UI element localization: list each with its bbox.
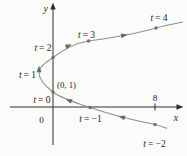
label-t0-var: t (33, 95, 36, 105)
parametric-curve-figure: y x 8 0 (0, 1) t= 4 t= 3 t= 2 t= 1 t= 0 … (0, 0, 187, 156)
point-t-1 (88, 106, 91, 109)
label-t3: t= 3 (78, 30, 95, 40)
label-t3-var: t (78, 30, 81, 40)
label-t0: t= 0 (33, 95, 50, 105)
parametric-curve (39, 22, 183, 129)
label-t3-eq: = 3 (83, 30, 96, 40)
label-t2: t= 2 (34, 43, 51, 53)
direction-arrow-icon (37, 66, 42, 73)
label-t-2-var: t (143, 139, 146, 149)
label-t-1-var: t (79, 114, 82, 124)
label-t-1: t= −1 (79, 114, 102, 124)
y-axis-label: y (43, 3, 49, 14)
axes (10, 3, 184, 146)
point-t-2 (153, 123, 156, 126)
y-axis-arrow-icon (50, 3, 55, 10)
label-t1-eq: = 1 (24, 70, 37, 80)
label-t4: t= 4 (150, 13, 167, 23)
point-t2 (51, 56, 54, 59)
point-t0 (51, 90, 54, 93)
label-t2-var: t (34, 43, 37, 53)
label-t0-eq: = 0 (38, 95, 51, 105)
direction-arrow-icon (65, 97, 73, 104)
label-t1-var: t (19, 70, 22, 80)
label-t-1-eq: = −1 (84, 114, 102, 124)
x-axis-label: x (173, 112, 179, 123)
label-t-2: t= −2 (143, 139, 166, 149)
x-axis-arrow-icon (177, 104, 184, 109)
point-t4 (154, 26, 157, 29)
origin-label: 0 (39, 115, 44, 125)
label-t4-var: t (150, 13, 153, 23)
x-tick-label-8: 8 (153, 93, 158, 103)
labels: y x 8 0 (0, 1) t= 4 t= 3 t= 2 t= 1 t= 0 … (19, 3, 179, 149)
point-0-1-label: (0, 1) (57, 80, 76, 90)
label-t1: t= 1 (19, 70, 36, 80)
curve-points (51, 26, 157, 126)
plot-canvas: y x 8 0 (0, 1) t= 4 t= 3 t= 2 t= 1 t= 0 … (0, 0, 187, 156)
label-t4-eq: = 4 (155, 13, 168, 23)
direction-arrow-icon (118, 114, 126, 120)
label-t2-eq: = 2 (39, 43, 52, 53)
label-t-2-eq: = −2 (148, 139, 166, 149)
